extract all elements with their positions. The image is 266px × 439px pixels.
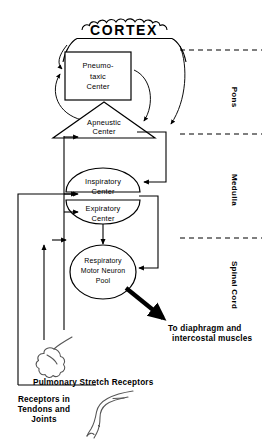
inspiratory-label-line1: Inspiratory xyxy=(85,177,121,186)
pneumotaxic-label-line1: Pneumo- xyxy=(82,61,113,70)
motor-pool-label-line3: Pool xyxy=(96,277,111,284)
pneumotaxic-center-node: Pneumo- taxic Center xyxy=(65,52,131,100)
lung-inner-mark xyxy=(47,355,57,364)
lung-bronchus xyxy=(54,337,72,349)
respiratory-control-diagram: CORTEX Pons Medulla Spinal Cord Pneumo- … xyxy=(0,0,266,439)
output-caption-line2: intercostal muscles xyxy=(172,334,252,343)
pulmonary-caption: Pulmonary Stretch Receptors xyxy=(33,378,154,387)
motor-pool-label-line1: Respiratory xyxy=(84,257,122,265)
lung-body xyxy=(36,348,65,378)
tendon-caption-line3: Joints xyxy=(31,415,57,424)
cortex-label: CORTEX xyxy=(90,22,158,38)
apneustic-label-line2: Center xyxy=(92,127,115,136)
arrow-apneustic-to-inspiratory xyxy=(137,132,166,182)
inspiratory-label-line2: Center xyxy=(91,187,114,196)
lung-icon xyxy=(36,337,72,377)
pneumotaxic-label-line3: Center xyxy=(86,82,109,91)
region-label-spinal-cord: Spinal Cord xyxy=(230,261,239,309)
leg-outline-back xyxy=(94,397,128,438)
expiratory-label-line2: Center xyxy=(91,214,114,223)
inspiratory-center-node: Inspiratory Center xyxy=(66,168,140,196)
leg-knee-mark xyxy=(113,398,124,399)
arrow-output-to-muscles xyxy=(126,288,163,318)
arrow-tendon-feedback xyxy=(18,194,76,385)
apneustic-label-line1: Apneustic xyxy=(87,118,121,127)
tendon-caption-line2: Tendons and xyxy=(18,405,71,414)
arrow-cortex-to-apneustic xyxy=(171,46,185,124)
arrow-inspiratory-to-motor-pool xyxy=(139,196,158,268)
motor-neuron-pool-node: Respiratory Motor Neuron Pool xyxy=(70,245,136,299)
region-label-medulla: Medulla xyxy=(230,174,239,206)
region-label-pons: Pons xyxy=(230,87,239,108)
expiratory-label-line1: Expiratory xyxy=(86,204,121,213)
motor-pool-label-line2: Motor Neuron xyxy=(81,267,126,274)
output-caption-line1: To diaphragm and xyxy=(168,324,242,333)
arrow-pneumotaxic-to-apneustic xyxy=(134,70,150,121)
tendon-caption-line1: Receptors in xyxy=(18,395,70,404)
leg-ankle-mark xyxy=(99,426,100,427)
diagram-canvas: CORTEX Pons Medulla Spinal Cord Pneumo- … xyxy=(0,0,266,439)
pneumotaxic-label-line2: taxic xyxy=(90,72,106,81)
leg-icon xyxy=(87,391,133,438)
apneustic-center-node: Apneustic Center xyxy=(53,102,155,138)
